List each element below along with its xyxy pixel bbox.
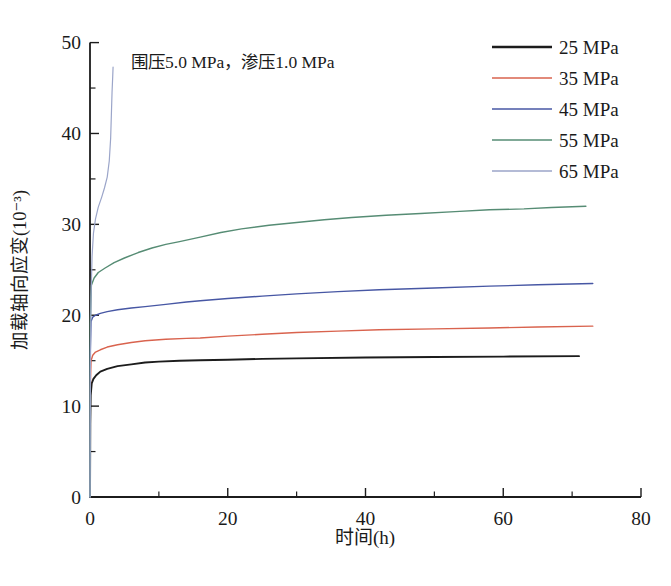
creep-strain-figure: 围压5.0 MPa，渗压1.0 MPa 时间(h) 加载轴向应变(10⁻³) 0… bbox=[0, 0, 671, 586]
x-tick-label: 60 bbox=[494, 508, 514, 529]
y-tick-label: 50 bbox=[62, 32, 82, 53]
legend-label-65mpa: 65 MPa bbox=[559, 161, 619, 182]
legend-label-35mpa: 35 MPa bbox=[559, 68, 619, 89]
x-axis-title: 时间(h) bbox=[335, 527, 395, 549]
y-tick-label: 30 bbox=[62, 214, 82, 235]
y-tick-label: 40 bbox=[62, 123, 82, 144]
y-tick-label: 0 bbox=[71, 487, 81, 508]
legend-label-25mpa: 25 MPa bbox=[559, 37, 619, 58]
chart-svg: 围压5.0 MPa，渗压1.0 MPa 时间(h) 加载轴向应变(10⁻³) 0… bbox=[0, 0, 671, 586]
x-tick-label: 0 bbox=[85, 508, 95, 529]
x-tick-label: 20 bbox=[218, 508, 238, 529]
legend: 25 MPa 35 MPa 45 MPa 55 MPa 65 MPa bbox=[492, 37, 619, 182]
x-tick-label: 80 bbox=[631, 508, 651, 529]
y-tick-label: 20 bbox=[62, 305, 82, 326]
series-line-25-mpa bbox=[90, 356, 579, 497]
series-line-65-mpa bbox=[90, 67, 113, 497]
annotation-confining-pressure: 围压5.0 MPa，渗压1.0 MPa bbox=[131, 52, 335, 72]
x-tick-label: 40 bbox=[356, 508, 376, 529]
legend-label-55mpa: 55 MPa bbox=[559, 130, 619, 151]
series-line-45-mpa bbox=[90, 283, 593, 497]
series-line-35-mpa bbox=[90, 326, 593, 497]
legend-label-45mpa: 45 MPa bbox=[559, 99, 619, 120]
series-line-55-mpa bbox=[90, 206, 586, 497]
y-axis-title: 加载轴向应变(10⁻³) bbox=[10, 190, 31, 350]
y-tick-label: 10 bbox=[62, 396, 82, 417]
